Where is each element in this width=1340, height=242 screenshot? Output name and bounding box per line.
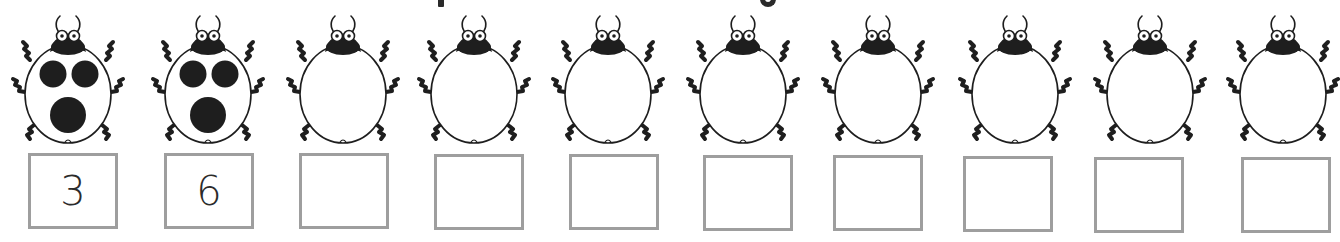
ladybug-4 [414, 12, 534, 147]
answer-box-10[interactable] [1241, 157, 1331, 233]
ladybug-9 [1090, 12, 1210, 147]
answer-box-3[interactable] [299, 153, 389, 229]
ladybug-icon [1223, 12, 1340, 147]
ladybug-icon [955, 12, 1075, 147]
answer-box-4[interactable] [434, 154, 524, 230]
ladybug-icon [283, 12, 403, 147]
ladybug-8 [955, 12, 1075, 147]
ladybug-3 [283, 12, 403, 147]
title-fragment-p [438, 0, 444, 7]
ladybug-5 [548, 12, 668, 147]
ladybug-1 [8, 12, 128, 147]
ladybug-10 [1223, 12, 1340, 147]
answer-box-6[interactable] [703, 155, 793, 231]
answer-box-5[interactable] [569, 154, 659, 230]
ladybug-icon [148, 12, 268, 147]
answer-box-1[interactable]: 3 [28, 153, 118, 229]
ladybug-icon [1090, 12, 1210, 147]
ladybug-2 [148, 12, 268, 147]
ladybug-icon [683, 12, 803, 147]
answer-box-9[interactable] [1094, 157, 1184, 233]
answer-box-7[interactable] [833, 155, 923, 231]
ladybug-6 [683, 12, 803, 147]
ladybug-icon [414, 12, 534, 147]
answer-box-2[interactable]: 6 [164, 153, 254, 229]
ladybug-icon [818, 12, 938, 147]
ladybug-icon [8, 12, 128, 147]
title-fragment-g [760, 0, 776, 7]
ladybug-7 [818, 12, 938, 147]
answer-box-8[interactable] [963, 156, 1053, 232]
ladybug-icon [548, 12, 668, 147]
